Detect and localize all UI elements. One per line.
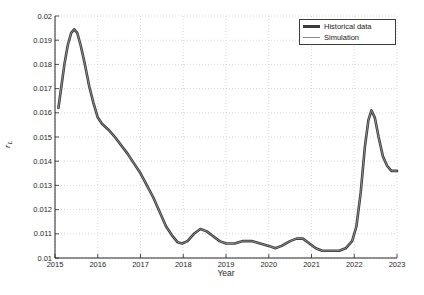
simulation-line-swatch <box>303 37 320 38</box>
y-tick-label: 0.01 <box>37 254 52 263</box>
y-tick-label: 0.016 <box>33 108 52 117</box>
y-tick-label: 0.017 <box>33 84 52 93</box>
y-tick-label: 0.013 <box>33 181 52 190</box>
y-tick-label: 0.014 <box>33 157 52 166</box>
legend-label-simulation: Simulation <box>324 33 359 42</box>
y-tick-label: 0.02 <box>37 12 52 21</box>
y-axis-label-main: r <box>2 145 12 149</box>
y-tick-label: 0.015 <box>33 133 52 142</box>
figure: 2015201620172018201920202021202220230.01… <box>0 0 424 295</box>
legend-item-simulation: Simulation <box>303 33 392 42</box>
y-tick-label: 0.018 <box>33 60 52 69</box>
y-tick-label: 0.019 <box>33 36 52 45</box>
y-tick-label: 0.012 <box>33 205 52 214</box>
legend-label-historical: Historical data <box>324 22 372 31</box>
legend-item-historical: Historical data <box>303 22 392 31</box>
y-axis-label-sub: L <box>6 141 14 145</box>
x-axis-label: Year <box>55 268 397 278</box>
simulation-line <box>58 29 397 250</box>
historical-line-swatch <box>303 25 320 28</box>
historical-data-line <box>58 29 397 250</box>
y-axis-label: rL <box>2 124 15 164</box>
y-tick-label: 0.011 <box>34 229 52 238</box>
legend: Historical data Simulation <box>299 19 396 45</box>
